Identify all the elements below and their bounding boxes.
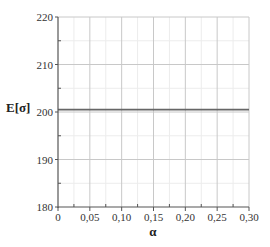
x-tick-label: 0,30 (239, 211, 259, 223)
x-tick-label: 0,05 (80, 211, 100, 223)
x-tick-label: 0 (55, 211, 61, 223)
y-axis-label: E[σ] (6, 100, 30, 115)
y-tick-label: 220 (37, 11, 54, 23)
chart: 00,050,100,150,200,250,30 18019020021022… (0, 0, 270, 247)
y-axis-ticks: 180190200210220 (37, 11, 62, 213)
y-tick-label: 180 (37, 201, 54, 213)
y-tick-label: 190 (37, 154, 54, 166)
x-tick-label: 0,15 (144, 211, 164, 223)
x-axis-label: α (149, 224, 157, 239)
x-tick-label: 0,20 (176, 211, 196, 223)
x-tick-label: 0,25 (208, 211, 228, 223)
y-tick-label: 210 (37, 59, 54, 71)
x-tick-label: 0,10 (112, 211, 132, 223)
grid-major (58, 17, 249, 207)
y-tick-label: 200 (37, 106, 54, 118)
